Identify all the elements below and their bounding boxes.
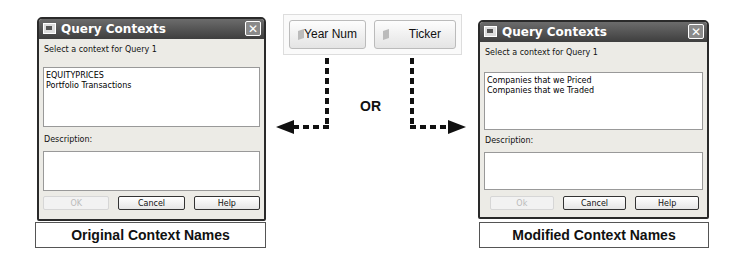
dialog-title: Query Contexts xyxy=(61,22,166,36)
connector-line-right-horizontal xyxy=(410,125,448,129)
context-prompt: Select a context for Query 1 xyxy=(39,39,264,63)
query-contexts-dialog-original: Query Contexts ✕ Select a context for Qu… xyxy=(37,17,266,221)
dialog-title-bar[interactable]: Query Contexts ✕ xyxy=(480,22,707,42)
close-icon[interactable]: ✕ xyxy=(688,24,704,39)
dimension-icon xyxy=(383,29,389,40)
help-button[interactable]: Help xyxy=(635,196,699,210)
arrow-right-icon xyxy=(448,120,466,134)
app-icon xyxy=(43,23,56,34)
object-ticker[interactable]: Ticker xyxy=(374,20,456,49)
context-item-portfolio-transactions[interactable]: Portfolio Transactions xyxy=(46,81,257,91)
ok-button[interactable]: OK xyxy=(43,196,109,210)
context-list[interactable]: EQUITYPRICES Portfolio Transactions xyxy=(43,67,260,127)
close-icon[interactable]: ✕ xyxy=(245,21,261,36)
description-field[interactable] xyxy=(484,152,703,190)
context-list[interactable]: Companies that we Priced Companies that … xyxy=(484,72,703,130)
app-icon xyxy=(484,26,497,37)
caption-original: Original Context Names xyxy=(35,222,266,248)
or-label: OR xyxy=(360,98,381,114)
context-prompt: Select a context for Query 1 xyxy=(480,42,707,66)
query-contexts-dialog-modified: Query Contexts ✕ Select a context for Qu… xyxy=(478,20,709,219)
help-button[interactable]: Help xyxy=(194,196,260,210)
context-item-companies-priced[interactable]: Companies that we Priced xyxy=(487,76,700,86)
connector-line-left-horizontal xyxy=(293,125,329,129)
ok-button[interactable]: Ok xyxy=(490,196,554,210)
arrow-left-icon xyxy=(276,120,294,134)
cancel-button[interactable]: Cancel xyxy=(118,196,184,210)
description-field[interactable] xyxy=(43,151,260,191)
description-label: Description: xyxy=(485,136,533,145)
description-label: Description: xyxy=(44,135,92,144)
dialog-title: Query Contexts xyxy=(502,25,607,39)
context-item-equityprices[interactable]: EQUITYPRICES xyxy=(46,71,257,81)
context-item-companies-traded[interactable]: Companies that we Traded xyxy=(487,86,700,96)
object-year-num[interactable]: Year Num xyxy=(289,20,366,49)
dialog-title-bar[interactable]: Query Contexts ✕ xyxy=(39,19,264,39)
connector-line-left-vertical xyxy=(325,58,329,128)
cancel-button[interactable]: Cancel xyxy=(563,196,627,210)
connector-line-right-vertical xyxy=(410,58,414,128)
result-objects-strip: Year Num Ticker xyxy=(283,14,462,55)
caption-modified: Modified Context Names xyxy=(479,222,709,248)
